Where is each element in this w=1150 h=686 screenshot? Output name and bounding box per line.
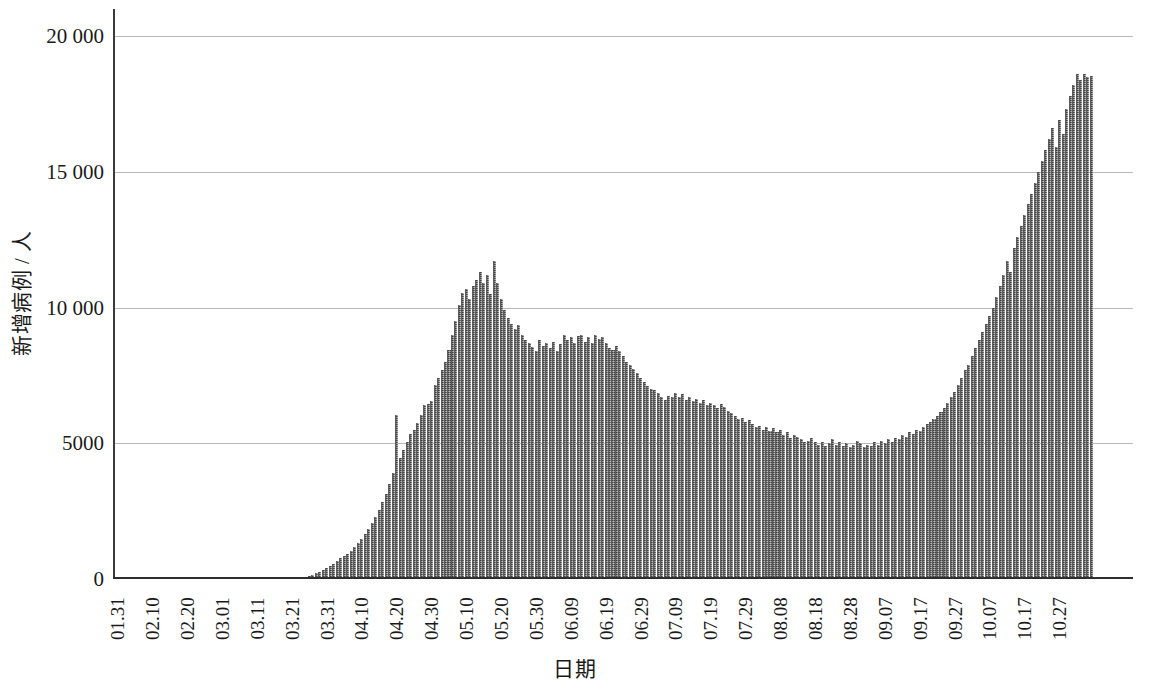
x-axis-tick-label-text: 06.29	[631, 597, 650, 640]
x-axis-tick-label: 06.19	[596, 583, 616, 655]
x-axis-tick-label: 10.07	[980, 583, 1000, 655]
x-axis-tick-label: 08.08	[770, 583, 790, 655]
x-axis-tick-label-text: 08.08	[771, 597, 790, 640]
x-axis-tick-label-text: 05.20	[492, 597, 511, 640]
x-axis-tick-label: 08.18	[805, 583, 825, 655]
x-axis-tick-label-text: 06.19	[597, 597, 616, 640]
x-axis-tick-label-text: 04.10	[352, 597, 371, 640]
x-axis-tick-label: 03.21	[282, 583, 302, 655]
x-axis-tick-label-text: 07.09	[666, 597, 685, 640]
x-axis-tick-label-text: 06.09	[562, 597, 581, 640]
x-axis-tick-label: 07.19	[701, 583, 721, 655]
x-axis-tick-label: 10.17	[1015, 583, 1035, 655]
x-axis-tick-label-text: 08.18	[806, 597, 825, 640]
x-axis-tick-label-text: 03.21	[282, 597, 301, 640]
x-axis-tick-label-text: 03.01	[213, 597, 232, 640]
x-axis-tick-label: 04.20	[387, 583, 407, 655]
x-axis-tick-label-text: 10.27	[1050, 597, 1069, 640]
x-axis-tick-label: 05.30	[526, 583, 546, 655]
plot-area	[113, 9, 1133, 579]
x-axis-tick-label: 03.11	[247, 583, 267, 655]
chart-screenshot: 新增病例 / 人 0500010 00015 00020 000 01.3102…	[0, 0, 1150, 686]
x-axis-tick-label-text: 10.17	[1015, 597, 1034, 640]
x-axis-tick-label-text: 07.29	[736, 597, 755, 640]
x-axis-tick-label: 07.29	[736, 583, 756, 655]
x-axis-tick-label-text: 02.20	[178, 597, 197, 640]
x-axis-tick-label: 03.31	[317, 583, 337, 655]
x-axis-tick-label-text: 02.10	[143, 597, 162, 640]
x-axis-tick-label-text: 03.11	[248, 597, 267, 639]
x-axis-tick-label-text: 07.19	[701, 597, 720, 640]
bar	[1090, 76, 1093, 580]
x-axis-tick-label: 09.17	[910, 583, 930, 655]
x-axis-tick-label: 07.09	[666, 583, 686, 655]
x-axis-tick-label-text: 05.30	[527, 597, 546, 640]
x-axis-tick-label-text: 03.31	[317, 597, 336, 640]
x-axis-tick-label-text: 09.07	[876, 597, 895, 640]
x-axis-tick-label: 02.10	[142, 583, 162, 655]
x-axis-tick-label-text: 09.17	[911, 597, 930, 640]
x-axis-tick-label: 06.29	[631, 583, 651, 655]
x-axis-tick-label: 10.27	[1050, 583, 1070, 655]
x-axis-tick-label: 04.10	[352, 583, 372, 655]
x-axis-tick-label: 05.10	[456, 583, 476, 655]
x-axis-tick-label-text: 10.07	[980, 597, 999, 640]
x-axis-tick-label: 01.31	[108, 583, 128, 655]
y-axis-tick-label: 5000	[4, 433, 104, 454]
x-axis-line	[113, 577, 1133, 579]
x-axis-tick-label: 04.30	[422, 583, 442, 655]
x-axis-title-text: 日期	[553, 657, 597, 681]
x-axis-tick-label: 06.09	[561, 583, 581, 655]
x-axis-tick-label-text: 05.10	[457, 597, 476, 640]
y-axis-tick-label: 15 000	[4, 161, 104, 182]
x-axis-tick-label: 09.07	[875, 583, 895, 655]
y-axis-tick-label: 0	[4, 569, 104, 590]
x-axis-tick-label-text: 09.27	[945, 597, 964, 640]
x-axis-title: 日期	[0, 652, 1150, 682]
y-axis-tick-labels: 0500010 00015 00020 000	[0, 0, 104, 686]
x-axis-tick-label-text: 04.20	[387, 597, 406, 640]
y-axis-line	[113, 9, 115, 579]
x-axis-tick-label: 08.28	[840, 583, 860, 655]
x-axis-tick-label-text: 04.30	[422, 597, 441, 640]
y-axis-tick-label: 20 000	[4, 26, 104, 47]
x-axis-tick-label-text: 08.28	[841, 597, 860, 640]
x-axis-tick-label: 03.01	[212, 583, 232, 655]
x-axis-tick-label-text: 01.31	[108, 597, 127, 640]
y-axis-tick-label: 10 000	[4, 297, 104, 318]
x-axis-tick-label: 09.27	[945, 583, 965, 655]
bar-series	[113, 9, 1133, 579]
x-axis-tick-label: 02.20	[177, 583, 197, 655]
x-axis-tick-labels: 01.3102.1002.2003.0103.1103.2103.3104.10…	[113, 583, 1133, 658]
x-axis-tick-label: 05.20	[491, 583, 511, 655]
